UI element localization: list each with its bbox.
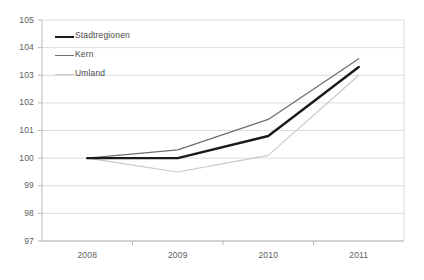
y-axis-ticks [38,20,42,241]
series-line-stadtregionen [87,67,359,158]
y-tick-label: 99 [8,180,34,190]
x-tick-label: 2010 [245,250,291,260]
legend-label: Umland [75,68,105,78]
y-tick-label: 104 [8,42,34,52]
legend-line-swatch-icon [55,55,74,56]
y-tick-label: 101 [8,125,34,135]
x-tick-label: 2011 [336,250,382,260]
y-tick-label: 103 [8,70,34,80]
series-line-kern [87,59,359,158]
x-tick-label: 2009 [155,250,201,260]
legend-line-swatch-icon [55,36,74,38]
legend-label: Kern [75,49,94,59]
plot-area [0,0,424,280]
x-axis-ticks [133,241,314,245]
y-tick-label: 98 [8,208,34,218]
gridlines [42,20,404,241]
line-chart: 979899100101102103104105 200820092010201… [0,0,424,280]
y-tick-label: 102 [8,97,34,107]
y-tick-label: 100 [8,153,34,163]
legend-label: Stadtregionen [75,30,130,40]
y-tick-label: 105 [8,15,34,25]
y-tick-label: 97 [8,236,34,246]
legend-line-swatch-icon [55,74,74,75]
x-tick-label: 2008 [64,250,110,260]
